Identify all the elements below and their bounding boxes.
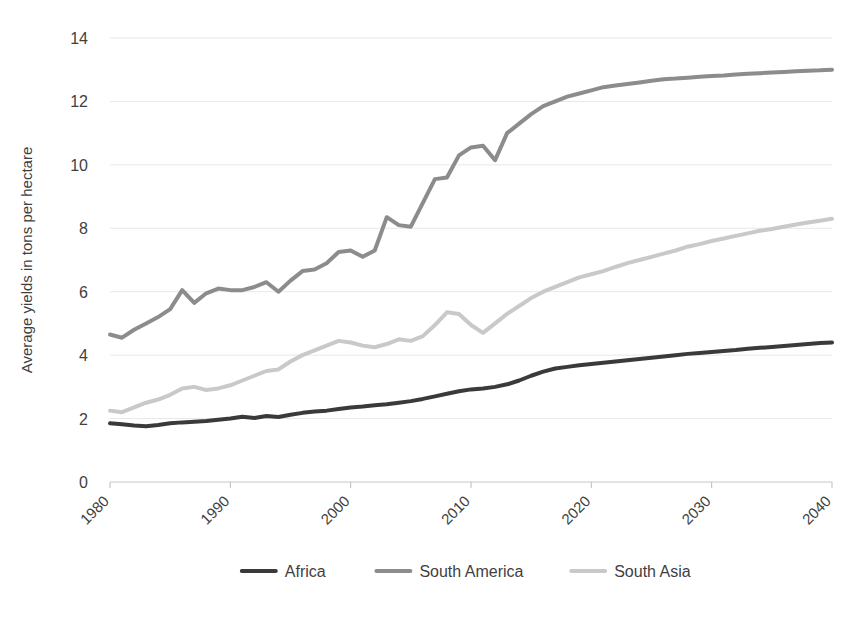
y-tick-label: 4 [79,347,88,364]
x-tick-label: 2030 [678,492,714,528]
line-chart: 02468101214 1980199020002010202020302040… [0,0,854,622]
y-tick-label: 2 [79,411,88,428]
x-axis-tick-labels: 1980199020002010202020302040 [77,492,835,528]
legend-label-africa: Africa [285,563,326,580]
y-axis-label: Average yields in tons per hectare [18,147,35,374]
y-axis-tick-labels: 02468101214 [70,30,88,491]
y-tick-label: 10 [70,157,88,174]
x-axis [110,482,832,488]
series-line-south-america [110,70,832,338]
x-tick-label: 2040 [799,492,835,528]
series-line-south-asia [110,219,832,412]
legend-label-south-america: South America [419,563,523,580]
gridlines [110,38,832,482]
y-tick-label: 0 [79,474,88,491]
chart-legend: AfricaSouth AmericaSouth Asia [242,563,691,580]
y-tick-label: 8 [79,220,88,237]
x-tick-label: 2020 [558,492,594,528]
x-tick-label: 1980 [77,492,113,528]
y-axis-title: Average yields in tons per hectare [18,147,35,374]
x-tick-label: 1990 [197,492,233,528]
data-series-group [110,70,832,426]
x-tick-label: 2010 [438,492,474,528]
y-tick-label: 14 [70,30,88,47]
y-tick-label: 12 [70,93,88,110]
chart-canvas: 02468101214 1980199020002010202020302040… [0,0,854,622]
y-tick-label: 6 [79,284,88,301]
legend-label-south-asia: South Asia [614,563,691,580]
x-tick-label: 2000 [317,492,353,528]
